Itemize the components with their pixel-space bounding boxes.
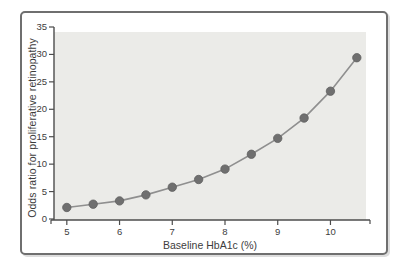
plot-area (54, 32, 366, 220)
x-tick-label: 6 (117, 226, 122, 237)
data-point (142, 191, 150, 199)
data-point (247, 150, 255, 158)
y-tick-label: 35 (36, 21, 47, 32)
y-tick-label: 0 (42, 213, 47, 224)
x-tick-label: 7 (170, 226, 175, 237)
data-point (274, 134, 282, 142)
data-point (326, 87, 334, 95)
y-tick-label: 5 (42, 186, 47, 197)
data-point (221, 165, 229, 173)
y-tick-label: 20 (36, 103, 47, 114)
data-point (300, 114, 308, 122)
data-point (115, 197, 123, 205)
data-point (63, 203, 71, 211)
y-axis-title: Odds ratio for proliferative retinopathy (26, 38, 38, 218)
x-tick-label: 8 (222, 226, 227, 237)
data-point (194, 175, 202, 183)
y-tick-label: 30 (36, 48, 47, 59)
x-tick-label: 9 (275, 226, 280, 237)
data-point (89, 200, 97, 208)
y-tick-label: 10 (36, 158, 47, 169)
chart-frame: 051015202530355678910 Odds ratio for pro… (20, 11, 388, 255)
data-point (168, 183, 176, 191)
x-axis-title: Baseline HbA1c (%) (22, 239, 386, 251)
y-tick-label: 25 (36, 76, 47, 87)
x-tick-label: 5 (64, 226, 69, 237)
line-chart: 051015202530355678910 (22, 13, 386, 253)
y-tick-label: 15 (36, 131, 47, 142)
data-point (353, 54, 361, 62)
x-tick-label: 10 (325, 226, 336, 237)
